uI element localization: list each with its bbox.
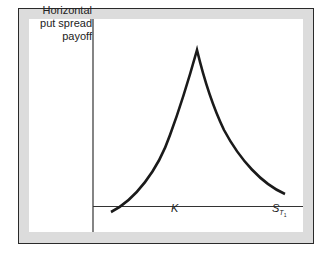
x-axis-label: ST1 (272, 202, 286, 218)
strike-k-label: K (171, 202, 178, 214)
x-axis-label-subsub: 1 (284, 212, 287, 218)
payoff-curve (111, 50, 285, 212)
